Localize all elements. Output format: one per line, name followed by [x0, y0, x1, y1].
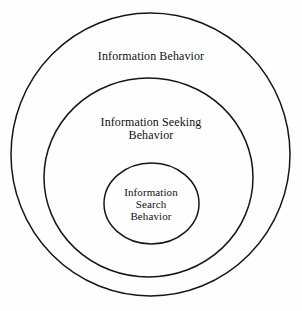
middle-circle	[44, 78, 253, 277]
outer-ring-label: Information Behavior	[51, 50, 251, 63]
inner-ring-label: Information Search Behavior	[76, 186, 226, 222]
nested-circles-graphic	[0, 0, 302, 311]
middle-ring-label: Information Seeking Behavior	[51, 116, 251, 141]
nested-model-diagram: Information Behavior Information Seeking…	[0, 0, 302, 311]
